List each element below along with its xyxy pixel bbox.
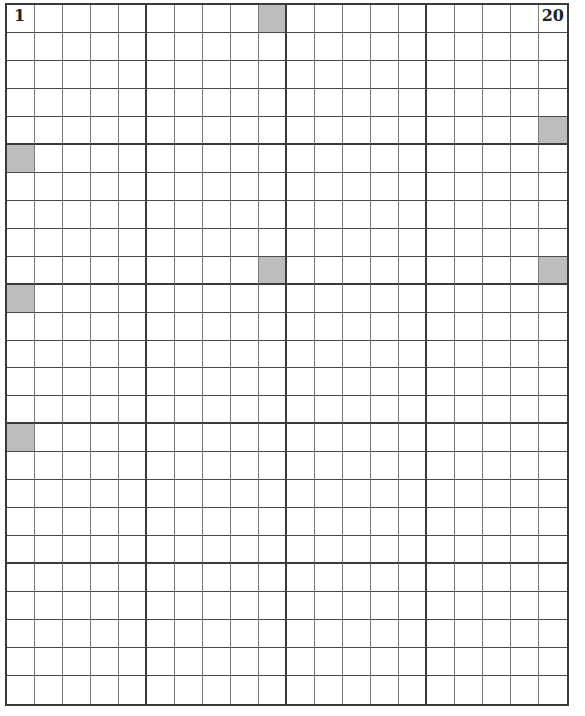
grid-cell[interactable] — [343, 620, 371, 648]
grid-cell[interactable] — [399, 145, 427, 173]
grid-cell[interactable] — [231, 201, 259, 229]
grid-cell[interactable] — [91, 341, 119, 369]
grid-cell[interactable] — [371, 313, 399, 341]
grid-cell[interactable] — [427, 89, 455, 117]
grid-cell[interactable] — [287, 424, 315, 452]
grid-cell[interactable] — [231, 396, 259, 424]
grid-cell[interactable] — [511, 536, 539, 564]
grid-cell[interactable] — [231, 452, 259, 480]
grid-cell[interactable] — [63, 33, 91, 61]
grid-cell[interactable] — [455, 564, 483, 592]
grid-cell[interactable] — [147, 648, 175, 676]
grid-cell[interactable] — [147, 313, 175, 341]
grid-cell[interactable] — [231, 341, 259, 369]
grid-cell[interactable] — [427, 480, 455, 508]
grid-cell[interactable] — [259, 229, 287, 257]
grid-cell[interactable] — [427, 648, 455, 676]
grid-cell[interactable] — [7, 257, 35, 285]
grid-cell[interactable] — [343, 368, 371, 396]
grid-cell[interactable] — [315, 508, 343, 536]
grid-cell[interactable] — [175, 452, 203, 480]
grid-cell[interactable] — [287, 145, 315, 173]
grid-cell[interactable] — [91, 620, 119, 648]
grid-cell[interactable] — [175, 313, 203, 341]
grid-cell[interactable] — [259, 341, 287, 369]
grid-cell[interactable] — [343, 536, 371, 564]
grid-cell[interactable] — [399, 285, 427, 313]
grid-cell[interactable] — [343, 508, 371, 536]
grid-cell[interactable] — [427, 285, 455, 313]
grid-cell[interactable] — [91, 285, 119, 313]
grid-cell[interactable] — [371, 173, 399, 201]
grid-cell[interactable] — [483, 117, 511, 145]
grid-cell[interactable] — [511, 648, 539, 676]
grid-cell[interactable] — [7, 648, 35, 676]
grid-cell[interactable] — [371, 424, 399, 452]
grid-cell[interactable] — [287, 452, 315, 480]
grid-cell[interactable] — [287, 592, 315, 620]
grid-cell[interactable] — [203, 61, 231, 89]
grid-cell[interactable] — [427, 117, 455, 145]
grid-cell[interactable] — [175, 201, 203, 229]
grid-cell[interactable] — [147, 257, 175, 285]
grid-cell[interactable] — [343, 229, 371, 257]
grid-cell[interactable] — [287, 173, 315, 201]
grid-cell[interactable] — [455, 145, 483, 173]
grid-cell[interactable] — [455, 33, 483, 61]
grid-cell[interactable] — [455, 536, 483, 564]
grid-cell[interactable] — [147, 592, 175, 620]
grid-cell[interactable] — [147, 229, 175, 257]
grid-cell[interactable] — [371, 536, 399, 564]
grid-cell[interactable] — [175, 89, 203, 117]
grid-cell[interactable] — [119, 452, 147, 480]
grid-cell[interactable] — [259, 508, 287, 536]
grid-cell[interactable] — [91, 201, 119, 229]
grid-cell[interactable] — [63, 424, 91, 452]
grid-cell[interactable] — [315, 201, 343, 229]
grid-cell[interactable] — [231, 508, 259, 536]
grid-cell[interactable] — [35, 61, 63, 89]
grid-cell[interactable] — [203, 341, 231, 369]
grid-cell[interactable] — [147, 396, 175, 424]
grid-cell[interactable] — [231, 564, 259, 592]
grid-cell[interactable] — [203, 257, 231, 285]
shaded-cell[interactable] — [7, 285, 35, 313]
grid-cell[interactable] — [147, 173, 175, 201]
grid-cell[interactable] — [63, 396, 91, 424]
grid-cell[interactable] — [539, 285, 567, 313]
grid-cell[interactable] — [455, 285, 483, 313]
grid-cell[interactable] — [287, 396, 315, 424]
grid-cell[interactable] — [343, 61, 371, 89]
grid-cell[interactable] — [315, 5, 343, 33]
grid-cell[interactable] — [119, 145, 147, 173]
grid-cell[interactable] — [203, 648, 231, 676]
grid-cell[interactable] — [343, 173, 371, 201]
grid-cell[interactable] — [119, 201, 147, 229]
grid-cell[interactable] — [63, 117, 91, 145]
grid-cell[interactable] — [539, 508, 567, 536]
grid-cell[interactable] — [35, 508, 63, 536]
grid-cell[interactable] — [175, 676, 203, 704]
grid-cell[interactable] — [427, 313, 455, 341]
grid-cell[interactable] — [259, 117, 287, 145]
grid-cell[interactable] — [343, 201, 371, 229]
grid-cell[interactable] — [7, 33, 35, 61]
grid-cell[interactable] — [343, 480, 371, 508]
grid-cell[interactable] — [91, 173, 119, 201]
grid-cell[interactable] — [455, 592, 483, 620]
grid-cell[interactable] — [287, 648, 315, 676]
grid-cell[interactable] — [399, 592, 427, 620]
grid-cell[interactable] — [483, 648, 511, 676]
grid-cell[interactable] — [35, 89, 63, 117]
grid-cell[interactable] — [259, 424, 287, 452]
grid-cell[interactable] — [315, 368, 343, 396]
grid-cell[interactable] — [7, 564, 35, 592]
grid-cell[interactable] — [455, 229, 483, 257]
grid-cell[interactable] — [343, 117, 371, 145]
grid-cell[interactable] — [35, 396, 63, 424]
grid-cell[interactable] — [427, 536, 455, 564]
grid-cell[interactable] — [287, 33, 315, 61]
grid-cell[interactable] — [511, 61, 539, 89]
grid-cell[interactable] — [91, 117, 119, 145]
grid-cell[interactable] — [371, 396, 399, 424]
